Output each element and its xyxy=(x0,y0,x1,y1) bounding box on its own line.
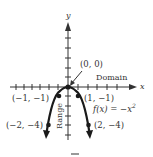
point-pos1 xyxy=(76,94,81,99)
function-exponent: 2 xyxy=(131,102,136,109)
curve-left-arrow-icon xyxy=(43,130,50,139)
y-axis xyxy=(65,28,71,140)
point-neg1 xyxy=(57,94,62,99)
curve-right-arrow-icon xyxy=(86,130,93,139)
point-pos2 xyxy=(86,123,91,128)
origin-label: (0, 0) xyxy=(80,59,103,69)
point-pos1-label: (1, −1) xyxy=(84,93,114,103)
parabola-graph: x y (0, 0) Domain (−1, −1) (1, −1) f xyxy=(0,0,153,157)
x-axis-label: x xyxy=(140,82,145,91)
graph-figure: x y (0, 0) Domain (−1, −1) (1, −1) f xyxy=(0,0,153,157)
y-axis-label: y xyxy=(65,11,71,20)
x-axis-arrow-icon xyxy=(129,84,137,90)
point-neg2 xyxy=(46,123,51,128)
range-label: Range xyxy=(55,103,64,129)
point-neg1-label: (−1, −1) xyxy=(12,93,49,103)
point-origin xyxy=(65,84,70,89)
y-axis-arrow-icon xyxy=(65,22,71,31)
point-neg2-label: (−2, −4) xyxy=(6,120,43,130)
point-pos2-label: (2, −4) xyxy=(94,120,124,130)
function-text: f(x) = −x xyxy=(92,104,132,114)
function-label: f(x) = −x2 xyxy=(92,102,136,114)
domain-label: Domain xyxy=(96,73,127,82)
